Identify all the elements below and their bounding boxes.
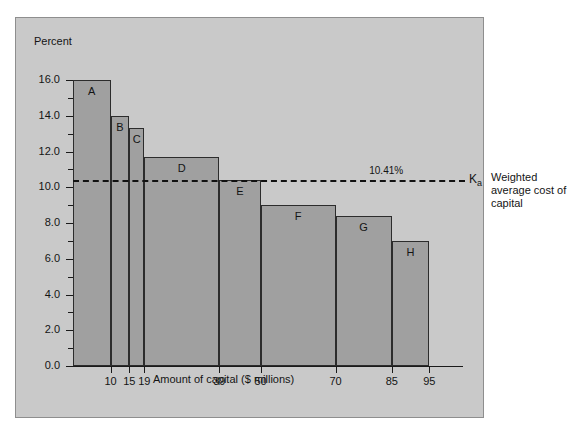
y-tick-major — [66, 80, 73, 81]
chart-figure-frame: Percent Amount of capital ($ millions) 0… — [15, 17, 484, 418]
y-tick-major — [66, 366, 73, 367]
x-tick-major — [111, 366, 112, 373]
y-tick-label: 8.0 — [28, 216, 60, 228]
y-tick-major — [66, 259, 73, 260]
bar-c — [129, 128, 144, 366]
wacc-symbol-subscript: a — [477, 178, 482, 188]
wacc-symbol-base: K — [469, 172, 477, 186]
wacc-caption: Weighted average cost of capital — [491, 171, 567, 210]
bar-e — [219, 180, 260, 366]
y-tick-label: 4.0 — [28, 288, 60, 300]
x-tick-label: 85 — [377, 375, 407, 387]
bar-b — [111, 116, 130, 366]
bar-d — [144, 157, 219, 366]
x-tick-major — [261, 366, 262, 373]
x-tick-major — [392, 366, 393, 373]
y-tick-label: 10.0 — [28, 180, 60, 192]
y-tick-major — [66, 223, 73, 224]
y-tick-label: 12.0 — [28, 145, 60, 157]
bar-a — [73, 80, 111, 366]
y-tick-label: 0.0 — [28, 359, 60, 371]
y-tick-label: 6.0 — [28, 252, 60, 264]
x-tick-label: 50 — [246, 375, 276, 387]
wacc-dashed-line — [73, 180, 465, 182]
x-tick-label: 39 — [204, 375, 234, 387]
wacc-symbol-label: Ka — [469, 172, 482, 188]
x-tick-label: 19 — [129, 375, 159, 387]
x-tick-label: 70 — [321, 375, 351, 387]
x-tick-major — [219, 366, 220, 373]
x-tick-major — [144, 366, 145, 373]
wacc-value-label: 10.41% — [369, 165, 403, 176]
y-axis-title: Percent — [34, 35, 72, 47]
plot-area: Percent Amount of capital ($ millions) 0… — [16, 18, 485, 419]
y-tick-major — [66, 116, 73, 117]
y-tick-label: 2.0 — [28, 323, 60, 335]
y-tick-major — [66, 295, 73, 296]
x-tick-major — [429, 366, 430, 373]
y-tick-major — [66, 152, 73, 153]
y-tick-label: 14.0 — [28, 109, 60, 121]
x-tick-label: 95 — [414, 375, 444, 387]
bar-h — [392, 241, 430, 366]
x-tick-major — [336, 366, 337, 373]
x-tick-major — [129, 366, 130, 373]
bar-g — [336, 216, 392, 366]
y-tick-major — [66, 330, 73, 331]
bar-f — [261, 205, 336, 366]
x-axis-line — [73, 366, 463, 367]
y-tick-major — [66, 187, 73, 188]
y-tick-label: 16.0 — [28, 73, 60, 85]
